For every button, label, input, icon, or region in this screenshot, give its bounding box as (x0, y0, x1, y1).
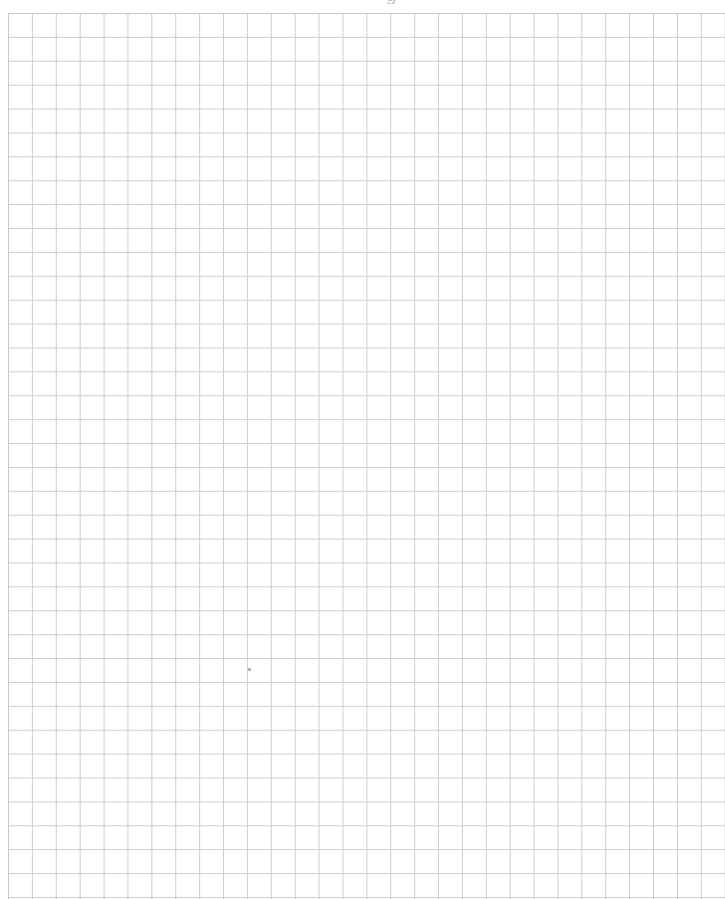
graph-paper-page: g (0, 0, 725, 899)
stray-mark (248, 668, 251, 671)
clipped-title-fragment: g (386, 0, 396, 4)
grid-area (8, 13, 725, 899)
